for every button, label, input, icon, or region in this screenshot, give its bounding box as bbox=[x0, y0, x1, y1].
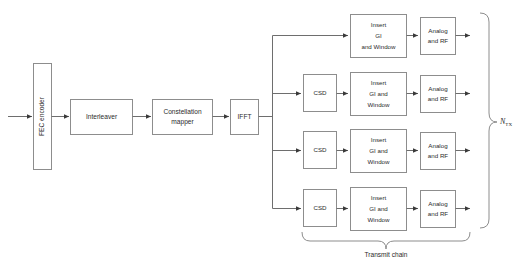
branch-row-2: CSD Insert GI and Window Analog and RF bbox=[304, 73, 471, 116]
block-ifft-label: IFFT bbox=[238, 113, 252, 120]
branch-row-4: CSD Insert GI and Window Analog and RF bbox=[304, 188, 471, 231]
transmitter-block-diagram: FEC encoder Interleaver Constellation ma… bbox=[0, 0, 527, 276]
block-analog-rf-4-line2: and RF bbox=[428, 210, 449, 217]
transmit-chain-label: Transmit chain bbox=[365, 251, 408, 258]
block-insert-gi-window-4-line2: GI and bbox=[369, 205, 388, 212]
block-fec-encoder-label: FEC encoder bbox=[38, 96, 45, 136]
block-csd-2-label: CSD bbox=[313, 89, 327, 96]
block-insert-gi-window-2-line3: Window bbox=[367, 101, 390, 108]
block-insert-gi-window-1-line1: Insert bbox=[371, 21, 387, 28]
block-analog-rf-1-line2: and RF bbox=[428, 37, 449, 44]
branch-row-1: Insert GI and Window Analog and RF bbox=[351, 15, 471, 58]
block-constellation-mapper-label-line2: mapper bbox=[171, 118, 194, 126]
block-analog-rf-2-line2: and RF bbox=[428, 95, 449, 102]
block-insert-gi-window-1-line2: GI bbox=[375, 32, 382, 39]
ntx-brace bbox=[480, 13, 497, 228]
block-diagram-canvas: FEC encoder Interleaver Constellation ma… bbox=[0, 0, 527, 276]
branch-row-3: CSD Insert GI and Window Analog and RF bbox=[304, 130, 471, 173]
block-insert-gi-window-2-line2: GI and bbox=[369, 90, 388, 97]
block-csd-4-label: CSD bbox=[313, 204, 327, 211]
block-analog-rf-3-line1: Analog bbox=[428, 142, 448, 149]
block-insert-gi-window-3-line3: Window bbox=[367, 158, 390, 165]
ntx-subscript: TX bbox=[505, 122, 512, 127]
block-insert-gi-window-3-line1: Insert bbox=[371, 136, 387, 143]
ntx-label: NTX bbox=[499, 117, 512, 127]
block-interleaver-label: Interleaver bbox=[86, 113, 118, 120]
block-analog-rf-1-line1: Analog bbox=[428, 27, 448, 34]
block-insert-gi-window-1-line3: and Window bbox=[361, 43, 396, 50]
block-insert-gi-window-4-line1: Insert bbox=[371, 194, 387, 201]
block-insert-gi-window-2-line1: Insert bbox=[371, 79, 387, 86]
block-analog-rf-2-line1: Analog bbox=[428, 85, 448, 92]
block-constellation-mapper-label-line1: Constellation bbox=[163, 108, 201, 115]
block-analog-rf-3-line2: and RF bbox=[428, 152, 449, 159]
block-csd-3-label: CSD bbox=[313, 146, 327, 153]
block-analog-rf-4-line1: Analog bbox=[428, 200, 448, 207]
block-insert-gi-window-3-line2: GI and bbox=[369, 147, 388, 154]
block-insert-gi-window-4-line3: Window bbox=[367, 216, 390, 223]
transmit-chain-brace bbox=[302, 232, 470, 249]
